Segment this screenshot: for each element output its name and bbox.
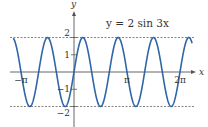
x-tick-label: π (124, 75, 130, 85)
x-tick-label: −π (14, 75, 28, 85)
y-tick-label: −1 (57, 84, 70, 94)
y-tick-label: 2 (64, 28, 70, 38)
y-axis-arrow-icon (72, 11, 76, 16)
x-axis-label: x (199, 67, 204, 77)
x-tick-label: 2π (174, 75, 186, 85)
y-tick-label: 1 (64, 50, 70, 60)
sine-chart: −ππ2π21−1−2 y = 2 sin 3x x y (0, 0, 208, 127)
tick-labels: −ππ2π21−1−2 (14, 28, 186, 118)
y-tick-label: −2 (57, 108, 70, 118)
function-label: y = 2 sin 3x (105, 17, 169, 29)
y-axis-label: y (70, 0, 77, 9)
x-axis-arrow-icon (191, 70, 196, 74)
